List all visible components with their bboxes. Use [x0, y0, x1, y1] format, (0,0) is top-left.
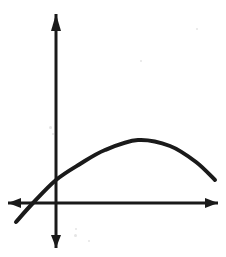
graph-figure: [0, 0, 226, 257]
graph-canvas: [0, 0, 226, 257]
paper-background: [0, 0, 226, 257]
